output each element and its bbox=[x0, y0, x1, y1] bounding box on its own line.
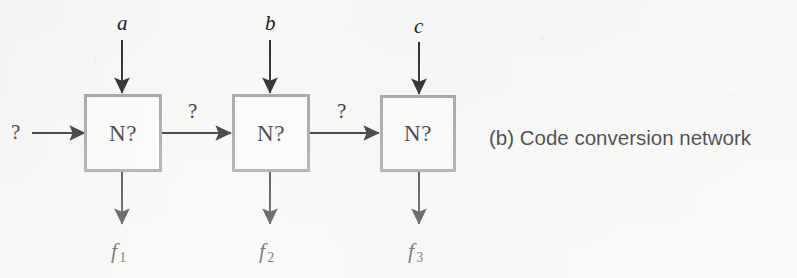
output-label-f1: f1 bbox=[111, 240, 124, 262]
output-sub-f3: 3 bbox=[416, 250, 423, 265]
input-label-left-question: ? bbox=[11, 122, 20, 143]
output-label-f2: f2 bbox=[259, 240, 272, 262]
figure-canvas: N? N? N? a b c ? ? ? f1 f2 f3 (b) Code c… bbox=[0, 0, 797, 278]
output-base-f1: f bbox=[111, 238, 117, 263]
node-box-3[interactable]: N? bbox=[380, 95, 456, 172]
output-sub-f1: 1 bbox=[119, 250, 126, 265]
input-label-c: c bbox=[414, 16, 423, 37]
output-base-f2: f bbox=[259, 238, 265, 263]
node-box-2[interactable]: N? bbox=[232, 94, 310, 172]
input-label-b: b bbox=[265, 13, 276, 34]
node-label-1: N? bbox=[109, 122, 137, 145]
node-box-1[interactable]: N? bbox=[84, 94, 162, 172]
node-label-3: N? bbox=[404, 122, 432, 145]
output-sub-f2: 2 bbox=[267, 250, 274, 265]
node-label-2: N? bbox=[257, 122, 285, 145]
interconnect-label-2: ? bbox=[337, 101, 346, 122]
interconnect-label-1: ? bbox=[188, 101, 197, 122]
output-base-f3: f bbox=[408, 238, 414, 263]
input-label-a: a bbox=[117, 13, 128, 34]
output-label-f3: f3 bbox=[408, 240, 421, 262]
figure-caption: (b) Code conversion network bbox=[489, 128, 751, 149]
